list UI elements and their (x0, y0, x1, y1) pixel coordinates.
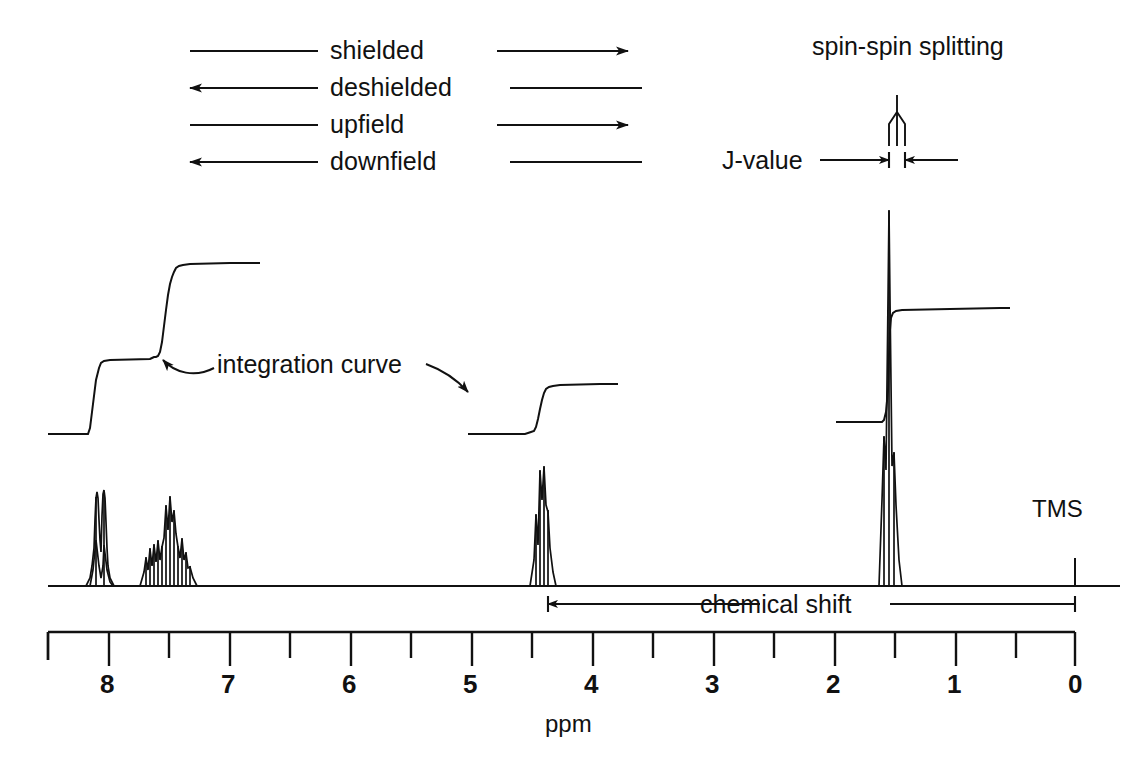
axis-tick-labels: 8 7 6 5 4 3 2 1 0 (0, 0, 1142, 757)
axis-tick-label-3: 3 (705, 671, 719, 697)
axis-tick-label-6: 6 (342, 671, 356, 697)
axis-tick-label-4: 4 (584, 671, 598, 697)
axis-tick-label-5: 5 (463, 671, 477, 697)
axis-tick-label-0: 0 (1068, 671, 1082, 697)
axis-tick-label-2: 2 (826, 671, 840, 697)
axis-unit-label: ppm (545, 712, 592, 736)
axis-tick-label-8: 8 (100, 671, 114, 697)
nmr-figure: shielded deshielded upfield downfield sp… (0, 0, 1142, 757)
axis-tick-label-7: 7 (221, 671, 235, 697)
axis-tick-label-1: 1 (947, 671, 961, 697)
